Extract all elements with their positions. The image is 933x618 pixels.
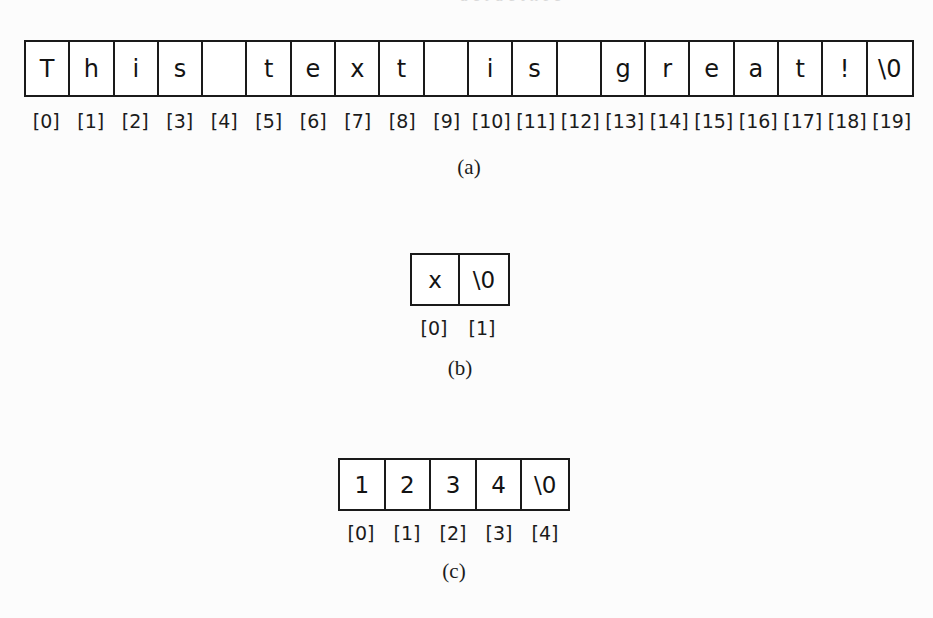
array-cell: i: [469, 42, 513, 95]
array-index-label: [2]: [430, 522, 476, 544]
array-index-label: [11]: [514, 110, 559, 132]
page-top-bleed: a e r a e t n f e: [0, 0, 933, 12]
array-cell: 3: [431, 460, 477, 509]
array-index-label: [16]: [736, 110, 781, 132]
char-array-figure-a: Thistextisgreat!\0 [0][1][2][3][4][5][6]…: [24, 40, 914, 180]
array-index-label: [1]: [458, 317, 506, 339]
array-index-label: [0]: [338, 522, 384, 544]
array-cell: [558, 42, 602, 95]
array-cell: \0: [522, 460, 568, 509]
array-index-label: [0]: [24, 110, 69, 132]
array-index-label: [18]: [825, 110, 870, 132]
array-index-label: [2]: [113, 110, 158, 132]
array-index-label: [6]: [291, 110, 336, 132]
array-cell: 2: [386, 460, 432, 509]
top-bleed-text: a e r a e t n f e: [460, 0, 561, 6]
array-cell: 4: [477, 460, 523, 509]
array-cell: T: [26, 42, 70, 95]
array-index-label: [4]: [202, 110, 247, 132]
array-index-label: [3]: [158, 110, 203, 132]
array-cell: h: [70, 42, 114, 95]
array-cell: t: [380, 42, 424, 95]
array-index-label: [13]: [603, 110, 648, 132]
array-cell: a: [735, 42, 779, 95]
array-index-label: [4]: [522, 522, 568, 544]
array-cell: t: [247, 42, 291, 95]
array-cell: x: [336, 42, 380, 95]
index-labels-b: [0][1]: [410, 317, 510, 339]
array-index-label: [5]: [247, 110, 292, 132]
array-cell: r: [646, 42, 690, 95]
array-cell: x: [412, 255, 460, 304]
array-cell: e: [690, 42, 734, 95]
array-index-label: [1]: [384, 522, 430, 544]
array-cell: \0: [868, 42, 912, 95]
char-array-cells-b: x\0: [410, 253, 510, 306]
array-cell: g: [602, 42, 646, 95]
array-index-label: [0]: [410, 317, 458, 339]
array-index-label: [15]: [692, 110, 737, 132]
array-index-label: [17]: [781, 110, 826, 132]
figure-caption-c: (c): [338, 559, 570, 584]
array-cell: s: [513, 42, 557, 95]
array-cell: \0: [460, 255, 508, 304]
index-labels-c: [0][1][2][3][4]: [338, 522, 570, 544]
char-array-figure-c: 1234\0 [0][1][2][3][4] (c): [338, 458, 570, 584]
array-cell: i: [115, 42, 159, 95]
figure-caption-a: (a): [24, 155, 914, 180]
array-index-label: [19]: [870, 110, 915, 132]
array-cell: [425, 42, 469, 95]
figure-page: { "page": { "background_color": "#fcfcfc…: [0, 0, 933, 618]
array-index-label: [14]: [647, 110, 692, 132]
index-labels-a: [0][1][2][3][4][5][6][7][8][9][10][11][1…: [24, 110, 914, 132]
array-cell: [203, 42, 247, 95]
array-cell: t: [779, 42, 823, 95]
array-cell: e: [292, 42, 336, 95]
array-index-label: [1]: [69, 110, 114, 132]
array-cell: !: [823, 42, 867, 95]
array-index-label: [8]: [380, 110, 425, 132]
array-cell: s: [159, 42, 203, 95]
array-cell: 1: [340, 460, 386, 509]
array-index-label: [12]: [558, 110, 603, 132]
figure-caption-b: (b): [410, 356, 510, 381]
char-array-cells-a: Thistextisgreat!\0: [24, 40, 914, 97]
array-index-label: [10]: [469, 110, 514, 132]
array-index-label: [9]: [425, 110, 470, 132]
char-array-cells-c: 1234\0: [338, 458, 570, 511]
array-index-label: [7]: [336, 110, 381, 132]
array-index-label: [3]: [476, 522, 522, 544]
char-array-figure-b: x\0 [0][1] (b): [410, 253, 510, 381]
